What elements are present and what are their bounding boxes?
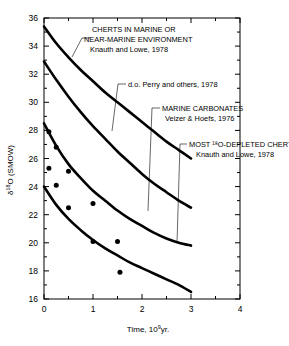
annotation-marine-carbonates-line2: Veizer & Hoefs, 1976 bbox=[165, 114, 234, 123]
annotation-text-group: CHERTS IN MARINE OR NEAR-MARINE ENVIRONM… bbox=[84, 25, 289, 159]
curve-series-2 bbox=[44, 123, 191, 245]
annotation-cherts-marine-line3: Knauth and Lowe, 1978 bbox=[90, 45, 168, 54]
data-point bbox=[66, 205, 71, 210]
y-tick-label: 26 bbox=[29, 154, 39, 164]
oxygen-isotope-chart: 1618202224262830323436 01234 CHERTS IN M… bbox=[0, 0, 289, 346]
data-point bbox=[54, 145, 59, 150]
y-tick-label: 18 bbox=[29, 266, 39, 276]
x-axis-tick-labels: 01234 bbox=[42, 304, 243, 314]
annotation-depleted-cherts-line2: Knauth and Lowe, 1978 bbox=[196, 150, 274, 159]
curve-group bbox=[44, 26, 191, 292]
y-tick-label: 20 bbox=[29, 238, 39, 248]
chart-figure: 1618202224262830323436 01234 CHERTS IN M… bbox=[0, 0, 289, 346]
data-point bbox=[46, 166, 51, 171]
y-axis-label: δ18O (SMOW) bbox=[5, 145, 15, 195]
annotation-cherts-marine-line2: NEAR-MARINE ENVIRONMENT bbox=[84, 35, 193, 44]
x-tick-label: 2 bbox=[140, 304, 145, 314]
data-point bbox=[91, 239, 96, 244]
y-tick-label: 22 bbox=[29, 210, 39, 220]
y-tick-label: 30 bbox=[29, 97, 39, 107]
y-tick-label: 36 bbox=[29, 13, 39, 23]
annotation-marine-carbonates-line1: MARINE CARBONATES bbox=[162, 104, 243, 113]
data-point bbox=[115, 239, 120, 244]
data-point bbox=[117, 270, 122, 275]
data-point bbox=[54, 183, 59, 188]
data-point bbox=[91, 201, 96, 206]
annotation-cherts-marine-line1: CHERTS IN MARINE OR bbox=[92, 25, 176, 34]
x-axis-label: Time, 109yr. bbox=[127, 324, 169, 335]
x-tick-label: 3 bbox=[189, 304, 194, 314]
leader-line-depleted-cherts bbox=[177, 144, 187, 243]
y-tick-label: 28 bbox=[29, 125, 39, 135]
y-tick-label: 16 bbox=[29, 294, 39, 304]
y-axis-tick-labels: 1618202224262830323436 bbox=[29, 13, 39, 304]
y-tick-label: 24 bbox=[29, 182, 39, 192]
x-tick-label: 0 bbox=[42, 304, 47, 314]
x-tick-label: 1 bbox=[91, 304, 96, 314]
data-point bbox=[66, 169, 71, 174]
y-tick-label: 32 bbox=[29, 69, 39, 79]
leader-line-marine-carbonates bbox=[148, 108, 160, 211]
annotation-depleted-cherts-line1: MOST ¹⁸O-DEPLETED CHERTS bbox=[189, 140, 289, 149]
annotation-perry-line1: d.o. Perry and others, 1978 bbox=[128, 80, 218, 89]
x-tick-label: 4 bbox=[238, 304, 243, 314]
data-point bbox=[46, 129, 51, 134]
y-tick-label: 34 bbox=[29, 41, 39, 51]
annotation-leader-lines bbox=[72, 38, 187, 243]
